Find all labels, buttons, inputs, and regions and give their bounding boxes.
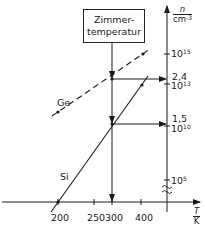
si-point [140,83,143,86]
box-line-2: temperatur [87,26,141,38]
x-axis-label: T K [193,207,200,226]
si-point [56,200,59,203]
y-tick-label-1e15: 1015 [171,49,191,59]
x-tick-label-200: 200 [51,213,69,223]
x-axis-label-den: K [193,217,200,226]
box-line-1: Zimmer- [94,14,134,26]
x-tick-label-300: 300 [105,213,123,223]
ge-label: Ge [57,98,70,108]
y-axis-label-den: cm-3 [173,15,192,24]
ge-point [141,52,144,55]
y-axis-label: n cm-3 [173,5,192,24]
ge-point [56,110,59,113]
x-tick-label-400: 400 [135,213,153,223]
y-tick-label-1e5: 105 [171,176,187,186]
si-label: Si [60,172,69,182]
y-tick-label-1e10: 1010 [171,124,191,134]
room-temperature-box: Zimmer- temperatur [83,9,145,43]
x-tick-label-250: 250 [87,213,105,223]
y-tick-label-1e13: 1013 [171,81,191,91]
